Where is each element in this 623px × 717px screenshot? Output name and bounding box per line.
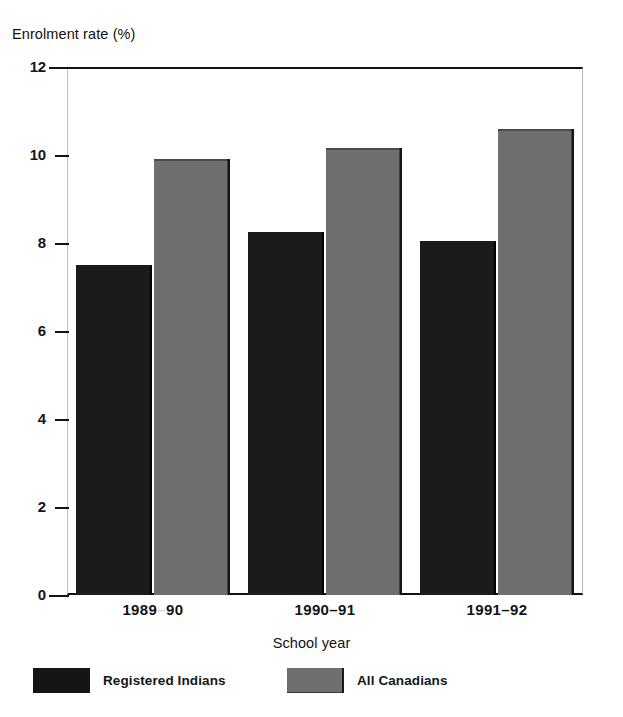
bar-registered-indians — [420, 241, 496, 595]
y-axis-tick-label: 6 — [0, 322, 46, 339]
cut-off-caption-fragment: · · — [0, 0, 623, 12]
legend-swatch-icon — [287, 668, 344, 693]
bar-all-canadians — [326, 148, 402, 595]
y-axis-tick-label: 12 — [0, 58, 46, 75]
y-axis-tick-label: 4 — [0, 410, 46, 427]
legend-item-all-canadians: All Canadians — [287, 668, 448, 693]
bar-registered-indians — [248, 232, 324, 595]
y-axis-tick — [49, 595, 69, 597]
x-axis-category-label: 1989–90 — [63, 601, 243, 618]
bars-layer — [67, 67, 583, 595]
y-axis-tick-label: 0 — [0, 586, 46, 603]
y-axis-tick-label: 2 — [0, 498, 46, 515]
legend-swatch-icon — [33, 668, 90, 693]
chart-legend: Registered Indians All Canadians — [0, 668, 623, 708]
legend-item-registered-indians: Registered Indians — [33, 668, 226, 693]
x-axis-category-label: 1990–91 — [235, 601, 415, 618]
x-axis-category-label: 1991–92 — [407, 601, 587, 618]
chart-figure: · · Enrolment rate (%) 024681012 1989–90… — [0, 0, 623, 717]
legend-item-label: All Canadians — [357, 673, 448, 688]
y-axis-tick-label: 10 — [0, 146, 46, 163]
bar-all-canadians — [498, 129, 574, 595]
y-axis-title: Enrolment rate (%) — [12, 26, 135, 42]
y-axis-tick — [49, 67, 69, 69]
legend-item-label: Registered Indians — [103, 673, 226, 688]
bar-registered-indians — [76, 265, 152, 595]
bar-all-canadians — [154, 159, 230, 595]
y-axis-tick-label: 8 — [0, 234, 46, 251]
x-axis-title: School year — [0, 635, 623, 651]
